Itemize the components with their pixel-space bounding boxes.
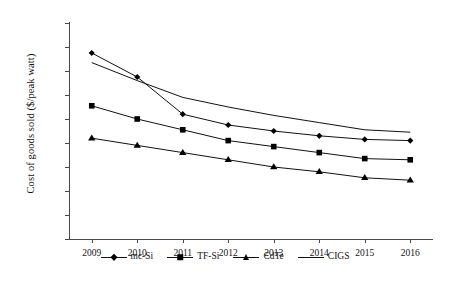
legend-marker-icon [101,252,127,262]
data-point-marker [407,157,413,163]
data-point-marker [134,116,140,122]
series-layer [69,23,433,239]
data-point-marker [225,122,231,128]
data-point-marker [225,138,231,144]
legend-label: TF-Si [197,252,219,262]
data-point-marker [89,50,95,56]
data-point-marker [271,144,277,150]
legend-label: mc-Si [131,252,154,262]
data-point-marker [362,156,368,162]
series-tf-si [89,103,413,163]
data-point-marker [362,136,368,142]
data-point-marker [271,128,277,134]
chart-legend: mc-SiTF-SiCdTeCIGS [0,252,450,262]
data-point-marker [407,176,414,182]
legend-label: CIGS [328,252,350,262]
x-tick-mark [319,239,320,243]
x-tick-mark [137,239,138,243]
data-point-marker [316,150,322,156]
data-point-marker [88,134,95,140]
data-point-marker [407,138,413,144]
legend-label: CdTe [263,252,283,262]
series-line [92,106,411,160]
x-tick-mark [92,239,93,243]
series-line [92,53,411,141]
x-tick-mark [274,239,275,243]
legend-item-mc-si[interactable]: mc-Si [101,252,154,262]
y-axis-title: Cost of goods sold ($/peak watt) [25,24,36,224]
legend-marker-icon [298,252,324,262]
legend-item-cdte[interactable]: CdTe [233,252,283,262]
data-point-marker [180,127,186,133]
x-tick-mark [410,239,411,243]
legend-item-cigs[interactable]: CIGS [298,252,350,262]
x-axis-line [69,239,433,240]
cost-of-goods-sold-line-chart: Cost of goods sold ($/peak watt) $-$0.20… [0,0,450,282]
plot-area: $-$0.20$0.40$0.60$0.80$1.00$1.20$1.40$1.… [69,23,433,239]
legend-marker-icon [167,252,193,262]
x-tick-mark [228,239,229,243]
x-tick-mark [365,239,366,243]
data-point-marker [316,133,322,139]
x-tick-mark [183,239,184,243]
legend-item-tf-si[interactable]: TF-Si [167,252,219,262]
data-point-marker [89,103,95,109]
y-tick-mark [65,239,69,240]
legend-marker-icon [233,252,259,262]
